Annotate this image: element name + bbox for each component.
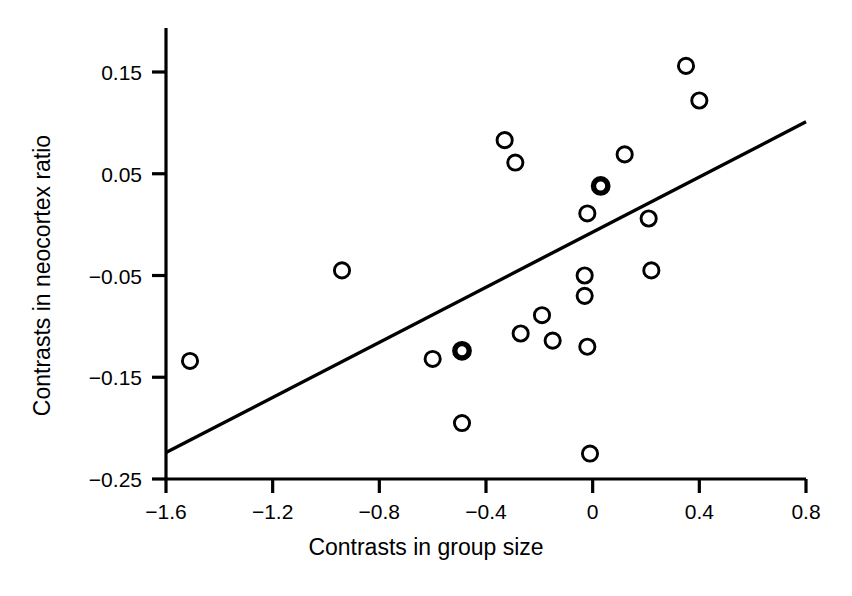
- plot-canvas: −1.6−1.2−0.8−0.400.40.8 0.150.05−0.05−0.…: [0, 0, 852, 596]
- x-tick-label: 0.8: [791, 500, 820, 523]
- y-tick-label: −0.25: [89, 468, 142, 491]
- axes: [166, 28, 806, 479]
- y-axis-label: Contrasts in neocortex ratio: [29, 66, 56, 486]
- data-point-marker: [644, 263, 659, 278]
- data-point-marker: [425, 351, 440, 366]
- data-point-marker: [678, 58, 693, 73]
- y-tick-label: −0.15: [89, 366, 142, 389]
- data-point-marker: [334, 263, 349, 278]
- y-tick-label: −0.05: [89, 265, 142, 288]
- data-point-marker: [577, 288, 592, 303]
- data-point-marker: [692, 93, 707, 108]
- trend-line: [166, 122, 806, 453]
- regression-line: [166, 122, 806, 453]
- data-point-marker: [497, 133, 512, 148]
- data-points: [182, 58, 707, 461]
- data-point-marker: [454, 415, 469, 430]
- x-tick-label: −0.8: [359, 500, 400, 523]
- data-point-marker: [577, 268, 592, 283]
- data-point-marker: [545, 333, 560, 348]
- data-point-marker: [455, 344, 469, 358]
- data-point-marker: [534, 308, 549, 323]
- x-axis-label: Contrasts in group size: [0, 534, 852, 561]
- data-point-marker: [593, 179, 607, 193]
- data-point-marker: [617, 147, 632, 162]
- data-point-marker: [582, 446, 597, 461]
- x-tick-label: −1.2: [252, 500, 293, 523]
- y-axis-ticks: 0.150.05−0.05−0.15−0.25: [89, 61, 166, 491]
- x-tick-label: −0.4: [465, 500, 507, 523]
- scatter-plot-figure: −1.6−1.2−0.8−0.400.40.8 0.150.05−0.05−0.…: [0, 0, 852, 596]
- x-axis-ticks: −1.6−1.2−0.8−0.400.40.8: [145, 479, 820, 523]
- data-point-marker: [513, 326, 528, 341]
- x-tick-label: 0.4: [685, 500, 715, 523]
- data-point-marker: [182, 353, 197, 368]
- y-tick-label: 0.15: [101, 61, 142, 84]
- data-point-marker: [580, 206, 595, 221]
- x-tick-label: 0: [587, 500, 599, 523]
- data-point-marker: [508, 155, 523, 170]
- data-point-marker: [641, 211, 656, 226]
- data-point-marker: [580, 339, 595, 354]
- x-tick-label: −1.6: [145, 500, 186, 523]
- y-tick-label: 0.05: [101, 163, 142, 186]
